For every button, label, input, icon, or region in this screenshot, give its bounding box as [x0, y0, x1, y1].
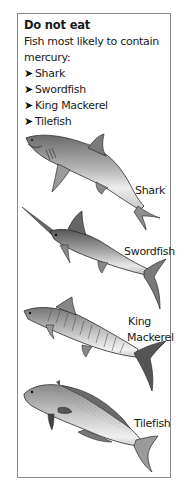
- arrow-right-icon: ➤: [24, 98, 33, 114]
- king-mackerel-label-line2: Mackerel: [127, 330, 174, 346]
- list-item-label: Swordfish: [35, 82, 86, 98]
- list-item-label: King Mackerel: [35, 98, 108, 114]
- fish-list: ➤ Shark ➤ Swordfish ➤ King Mackerel ➤ Ti…: [24, 66, 108, 130]
- arrow-right-icon: ➤: [24, 82, 33, 98]
- shark-label: Shark: [135, 183, 165, 199]
- panel-title: Do not eat: [24, 18, 90, 32]
- panel-intro: Fish most likely to contain mercury:: [24, 34, 169, 66]
- tilefish-label: Tilefish: [134, 416, 171, 432]
- swordfish-label: Swordfish: [124, 244, 175, 260]
- list-item-label: Tilefish: [35, 114, 72, 130]
- arrow-right-icon: ➤: [24, 66, 33, 82]
- list-item-label: Shark: [35, 66, 65, 82]
- list-item: ➤ Swordfish: [24, 82, 108, 98]
- arrow-right-icon: ➤: [24, 114, 33, 130]
- king-mackerel-label-line1: King: [128, 314, 151, 330]
- list-item: ➤ Shark: [24, 66, 108, 82]
- list-item: ➤ King Mackerel: [24, 98, 108, 114]
- list-item: ➤ Tilefish: [24, 114, 108, 130]
